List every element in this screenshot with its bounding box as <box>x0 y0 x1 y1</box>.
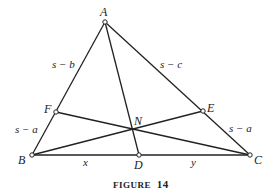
cevian-cf <box>56 112 250 155</box>
figure-caption: FIGURE 14 <box>113 178 169 190</box>
segment-label-af: s − b <box>52 58 75 70</box>
side-ac <box>105 22 250 155</box>
label-n: N <box>133 114 143 128</box>
point-f <box>54 110 58 114</box>
point-a <box>103 20 107 24</box>
point-b <box>30 153 34 157</box>
segment-label-dc: y <box>190 156 196 168</box>
figure-diagram: A B C D E F N s − b s − c s − a s − a x … <box>0 0 273 196</box>
label-b: B <box>18 153 26 167</box>
caption-word: FIGURE <box>113 180 151 190</box>
caption-number: 14 <box>157 178 169 190</box>
segment-label-ec: s − a <box>229 122 252 134</box>
point-e <box>201 109 205 113</box>
segment-label-bd: x <box>82 156 88 168</box>
segment-label-fb: s − a <box>15 123 38 135</box>
label-d: D <box>133 158 143 172</box>
segment-label-ae: s − c <box>160 58 182 70</box>
label-e: E <box>206 101 215 115</box>
label-a: A <box>99 5 108 19</box>
side-ab <box>32 22 105 155</box>
point-c <box>248 153 252 157</box>
point-d <box>137 153 141 157</box>
label-f: F <box>43 102 52 116</box>
label-c: C <box>254 153 263 167</box>
cevian-be <box>32 111 203 155</box>
